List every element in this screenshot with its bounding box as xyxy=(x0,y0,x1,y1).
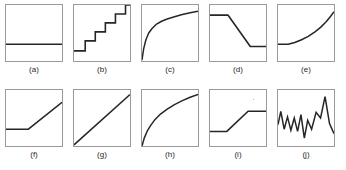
panel-row-top: (a) (b) (c) (d) xyxy=(0,0,346,85)
panel-label-i: (i) xyxy=(209,149,267,160)
plot-frame-f xyxy=(5,89,63,147)
panel-label-a: (a) xyxy=(5,64,63,75)
curve-d-descending-step xyxy=(210,5,266,61)
plot-frame-i xyxy=(209,89,267,147)
panel-e: (e) xyxy=(277,0,335,81)
curve-h-sqrt xyxy=(142,90,198,146)
panel-label-b: (b) xyxy=(73,64,131,75)
curve-e-convex xyxy=(278,5,334,61)
curve-g-linear xyxy=(74,90,130,146)
panel-j: (j) xyxy=(277,85,335,166)
panel-label-d: (d) xyxy=(209,64,267,75)
panel-label-e: (e) xyxy=(277,64,335,75)
curve-f-hinge xyxy=(6,90,62,146)
panel-f: (f) xyxy=(5,85,63,166)
curve-j-zigzag xyxy=(278,90,334,146)
panel-label-f: (f) xyxy=(5,149,63,160)
plot-frame-e xyxy=(277,4,335,62)
panel-row-bottom: (f) (g) (h) ( xyxy=(0,85,346,170)
plot-frame-a xyxy=(5,4,63,62)
figure-container: (a) (b) (c) (d) xyxy=(0,0,346,170)
plot-frame-d xyxy=(209,4,267,62)
curve-c-concave xyxy=(142,5,198,61)
panel-b: (b) xyxy=(73,0,131,81)
plot-frame-j xyxy=(277,89,335,147)
curve-i-ascending-step xyxy=(210,90,266,146)
panel-i: (i) xyxy=(209,85,267,166)
panel-label-h: (h) xyxy=(141,149,199,160)
plot-frame-h xyxy=(141,89,199,147)
panel-label-g: (g) xyxy=(73,149,131,160)
plot-frame-b xyxy=(73,4,131,62)
plot-frame-c xyxy=(141,4,199,62)
curve-a-constant xyxy=(6,5,62,61)
panel-label-j: (j) xyxy=(277,149,335,160)
panel-a: (a) xyxy=(5,0,63,81)
curve-b-staircase xyxy=(74,5,130,61)
panel-label-c: (c) xyxy=(141,64,199,75)
panel-g: (g) xyxy=(73,85,131,166)
panel-h: (h) xyxy=(141,85,199,166)
stray-speck xyxy=(253,99,254,100)
panel-c: (c) xyxy=(141,0,199,81)
panel-d: (d) xyxy=(209,0,267,81)
plot-frame-g xyxy=(73,89,131,147)
